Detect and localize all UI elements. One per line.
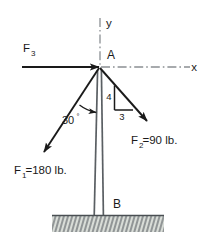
force-F3-subscript: 3 <box>31 49 36 58</box>
force-F2-symbol: F <box>131 134 138 146</box>
ground-hatching <box>52 216 164 233</box>
y-axis-label: y <box>106 17 112 29</box>
angle-degree-symbol: ° <box>77 112 80 121</box>
angle-value-label: 30 <box>62 114 74 126</box>
slope-rise-label: 4 <box>106 91 111 102</box>
figure-container: y x A B F 3 30 ° 4 3 F 1 =180 lb. F 2 =9… <box>0 0 206 240</box>
force-F2-value: =90 lb. <box>143 134 178 146</box>
statics-free-body-diagram: y x A B F 3 30 ° 4 3 F 1 =180 lb. F 2 =9… <box>0 0 206 240</box>
point-label-A: A <box>107 48 115 62</box>
x-axis-label: x <box>191 61 197 73</box>
slope-run-label: 3 <box>119 111 124 122</box>
force-F1-value: =180 lb. <box>26 164 67 176</box>
point-label-B: B <box>113 197 121 211</box>
force-F3-label: F <box>23 42 30 54</box>
force-F1-symbol: F <box>14 164 21 176</box>
